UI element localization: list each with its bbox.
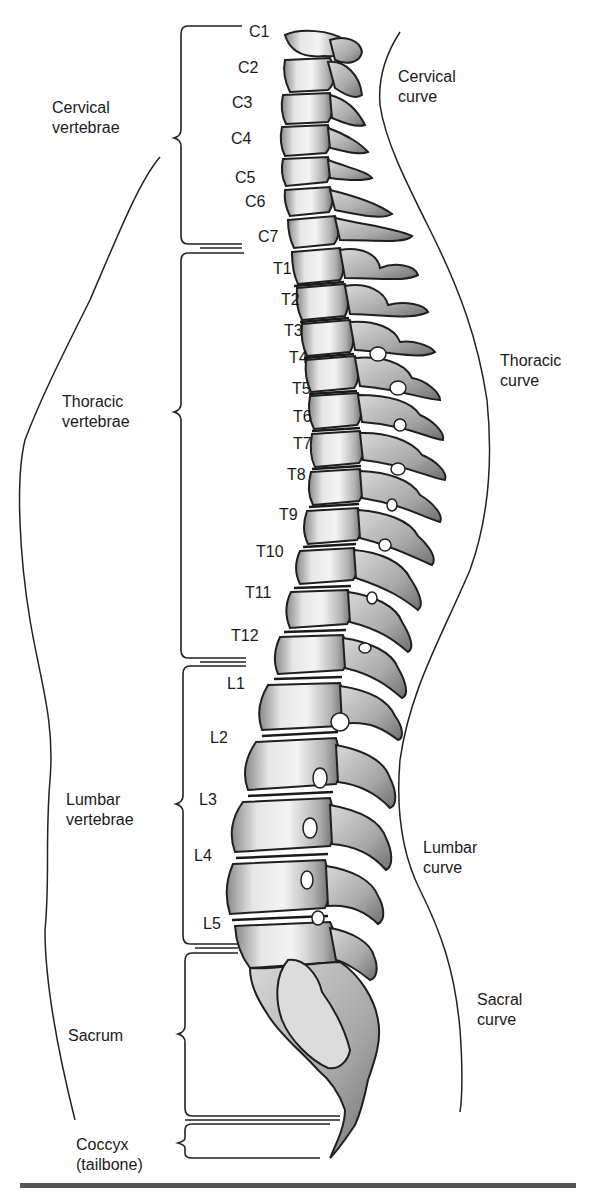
label-cervical-curve: Cervical curve xyxy=(398,67,456,107)
label-line: Cervical xyxy=(398,67,456,87)
label-line: Sacral xyxy=(477,990,522,1010)
label-t2: T2 xyxy=(281,290,300,309)
label-l1: L1 xyxy=(227,674,245,693)
label-thoracic-curve: Thoracic curve xyxy=(500,351,561,391)
label-line: curve xyxy=(500,371,561,391)
label-c7: C7 xyxy=(258,227,278,246)
label-line: Lumbar xyxy=(66,790,134,810)
label-coccyx: Coccyx (tailbone) xyxy=(76,1135,143,1175)
label-c2: C2 xyxy=(238,58,258,77)
label-t5: T5 xyxy=(292,379,311,398)
back-contour-left xyxy=(20,157,160,1120)
label-c4: C4 xyxy=(231,129,251,148)
label-l4: L4 xyxy=(194,846,212,865)
label-lumbar-curve: Lumbar curve xyxy=(423,838,477,878)
label-line: vertebrae xyxy=(62,412,130,432)
label-t4: T4 xyxy=(289,348,308,367)
label-line: (tailbone) xyxy=(76,1155,143,1175)
label-line: vertebrae xyxy=(66,810,134,830)
label-sacral-curve: Sacral curve xyxy=(477,990,522,1030)
label-t1: T1 xyxy=(273,259,292,278)
label-line: vertebrae xyxy=(52,118,120,138)
label-c3: C3 xyxy=(232,93,252,112)
label-lumbar-vertebrae: Lumbar vertebrae xyxy=(66,790,134,830)
label-c6: C6 xyxy=(245,192,265,211)
label-line: Coccyx xyxy=(76,1135,143,1155)
label-t10: T10 xyxy=(256,542,284,561)
label-line: curve xyxy=(423,858,477,878)
label-line: curve xyxy=(477,1010,522,1030)
label-line: Cervical xyxy=(52,98,120,118)
label-t11: T11 xyxy=(245,583,271,602)
label-l3: L3 xyxy=(199,790,217,809)
label-cervical-vertebrae: Cervical vertebrae xyxy=(52,98,120,138)
label-thoracic-vertebrae: Thoracic vertebrae xyxy=(62,392,130,432)
bottom-divider xyxy=(20,1183,576,1188)
label-t8: T8 xyxy=(287,465,306,484)
sacrum-coccyx xyxy=(250,960,379,1158)
label-t7: T7 xyxy=(293,434,312,453)
label-l5: L5 xyxy=(203,914,221,933)
label-t3: T3 xyxy=(284,321,303,340)
label-c1: C1 xyxy=(249,22,269,41)
label-line: Lumbar xyxy=(423,838,477,858)
label-t12: T12 xyxy=(231,626,259,645)
label-line: curve xyxy=(398,87,456,107)
label-t9: T9 xyxy=(279,505,298,524)
label-l2: L2 xyxy=(210,728,228,747)
label-t6: T6 xyxy=(293,407,312,426)
label-c5: C5 xyxy=(235,168,255,187)
label-line: Thoracic xyxy=(500,351,561,371)
label-line: Thoracic xyxy=(62,392,130,412)
label-line: Sacrum xyxy=(68,1026,123,1046)
label-sacrum: Sacrum xyxy=(68,1026,123,1046)
